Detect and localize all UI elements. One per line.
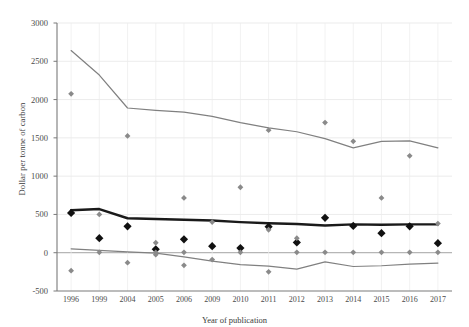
data-point-marker <box>68 268 74 274</box>
data-point-marker <box>350 138 356 144</box>
data-point-marker <box>181 195 187 201</box>
data-point-marker <box>180 235 188 243</box>
data-point-marker <box>294 249 300 255</box>
data-point-marker <box>125 260 131 266</box>
data-point-marker <box>407 249 413 255</box>
data-point-marker <box>322 120 328 126</box>
data-point-marker <box>123 222 131 230</box>
data-point-marker <box>435 249 441 255</box>
data-point-marker <box>96 212 102 218</box>
data-line-central-estimate-trend <box>71 209 438 225</box>
data-point-marker <box>294 235 300 241</box>
data-point-marker <box>322 249 328 255</box>
data-line-upper-bound-trend <box>71 51 438 148</box>
data-point-marker <box>153 240 159 246</box>
data-point-marker <box>379 249 385 255</box>
data-point-marker <box>379 195 385 201</box>
data-point-marker <box>68 91 74 97</box>
data-point-marker <box>434 239 442 247</box>
plot-area <box>0 0 469 327</box>
data-point-marker <box>266 269 272 275</box>
data-point-marker <box>95 234 103 242</box>
data-point-marker <box>407 153 413 159</box>
data-point-marker <box>435 221 441 227</box>
chart-container: Dollar per tonne of carbon Year of publi… <box>0 0 469 327</box>
data-point-marker <box>237 249 243 255</box>
data-point-marker <box>349 222 357 230</box>
data-point-marker <box>377 229 385 237</box>
data-point-marker <box>350 249 356 255</box>
data-point-marker <box>321 214 329 222</box>
data-point-marker <box>237 184 243 190</box>
data-point-marker <box>181 262 187 268</box>
data-point-marker <box>208 242 216 250</box>
data-point-marker <box>181 249 187 255</box>
